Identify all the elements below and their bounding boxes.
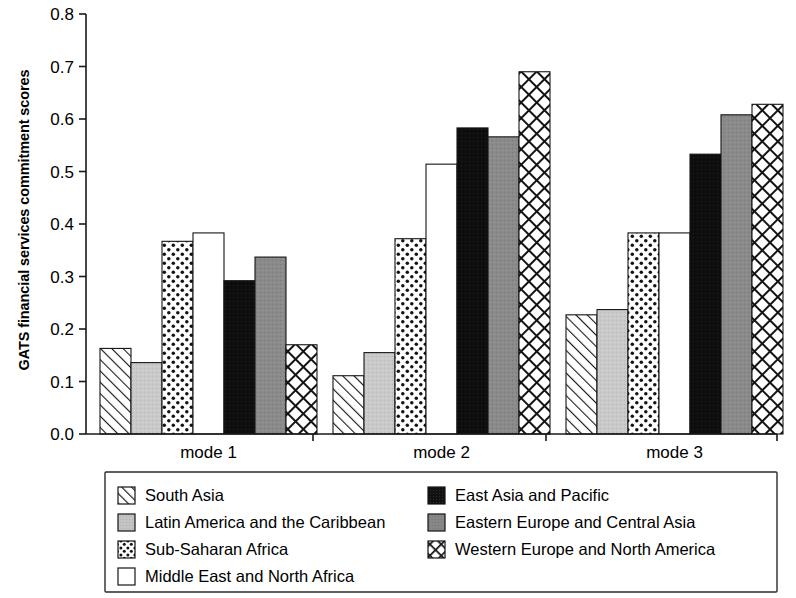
bar	[131, 363, 162, 434]
bar-chart-figure: GATS financial services commitment score…	[0, 0, 796, 598]
y-tick-label: 0.0	[50, 425, 74, 444]
legend-label: East Asia and Pacific	[455, 486, 609, 504]
bar	[488, 137, 519, 434]
y-tick-label: 0.4	[50, 215, 74, 234]
y-tick-label: 0.2	[50, 320, 74, 339]
x-category-label: mode 1	[180, 443, 237, 462]
bar	[457, 128, 488, 434]
y-tick-label: 0.8	[50, 5, 74, 24]
bar	[597, 310, 628, 434]
bar	[364, 353, 395, 434]
bar	[752, 104, 783, 434]
bar	[659, 233, 690, 434]
bar	[721, 115, 752, 434]
legend-swatch	[118, 487, 135, 504]
bar	[519, 72, 550, 434]
y-tick-label: 0.6	[50, 110, 74, 129]
legend-label: Latin America and the Caribbean	[145, 513, 385, 531]
chart-legend: South AsiaLatin America and the Caribbea…	[105, 472, 777, 592]
bar	[628, 233, 659, 434]
y-tick-label: 0.1	[50, 373, 74, 392]
x-axis-categories: mode 1mode 2mode 3	[180, 434, 777, 462]
legend-label: Western Europe and North America	[455, 540, 716, 558]
bar	[333, 376, 364, 434]
legend-label: South Asia	[145, 486, 225, 504]
x-category-label: mode 2	[413, 443, 470, 462]
bar	[566, 315, 597, 434]
x-category-label: mode 3	[646, 443, 703, 462]
legend-swatch	[118, 541, 135, 558]
bar	[255, 257, 286, 434]
y-axis-ticks: 0.00.10.20.30.40.50.60.70.8	[50, 5, 86, 444]
bar	[162, 241, 193, 434]
legend-label: Middle East and North Africa	[145, 567, 355, 585]
y-tick-label: 0.5	[50, 163, 74, 182]
legend-swatch	[428, 541, 445, 558]
y-tick-label: 0.7	[50, 58, 74, 77]
bar	[286, 345, 317, 434]
legend-swatch	[118, 568, 135, 585]
bar	[193, 233, 224, 434]
legend-swatch	[428, 514, 445, 531]
y-axis-label: GATS financial services commitment score…	[16, 0, 32, 440]
legend-swatch	[118, 514, 135, 531]
bar	[100, 348, 131, 434]
bars-layer	[100, 72, 783, 434]
y-tick-label: 0.3	[50, 268, 74, 287]
bar	[395, 239, 426, 434]
legend-label: Eastern Europe and Central Asia	[455, 513, 696, 531]
bar	[690, 154, 721, 434]
legend-swatch	[428, 487, 445, 504]
legend-label: Sub-Saharan Africa	[145, 540, 289, 558]
bar	[426, 164, 457, 434]
bar	[224, 281, 255, 434]
chart-canvas: 0.00.10.20.30.40.50.60.70.8 mode 1mode 2…	[0, 0, 796, 598]
